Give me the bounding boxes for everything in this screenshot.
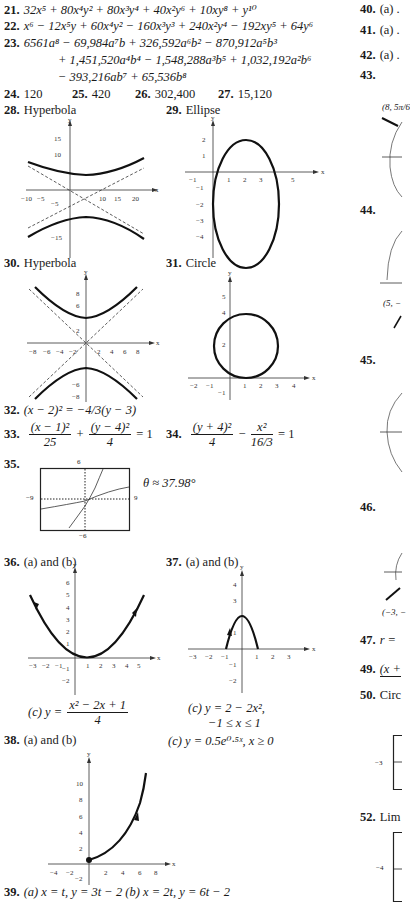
svg-text:1: 1: [255, 653, 259, 661]
svg-text:−1: −1: [221, 653, 229, 661]
svg-text:10: 10: [76, 780, 84, 788]
svg-text:−2: −2: [66, 869, 74, 877]
svg-text:y: y: [87, 750, 91, 758]
svg-text:1: 1: [233, 629, 237, 637]
svg-text:−1: −1: [218, 389, 226, 397]
svg-text:2: 2: [243, 176, 247, 184]
answer-31-label: 31.Circle: [166, 256, 216, 271]
answer-44: 44.: [360, 203, 376, 218]
svg-text:3: 3: [112, 662, 116, 670]
svg-text:3: 3: [259, 176, 263, 184]
svg-text:6: 6: [138, 869, 142, 877]
svg-text:y: y: [73, 561, 77, 569]
svg-text:−2: −2: [62, 677, 70, 685]
chart-36-parabola: xy −3−2−1 12345 654321 −1−2: [24, 565, 164, 695]
answer-41: 41.(a) .: [360, 23, 400, 38]
svg-text:5: 5: [291, 176, 295, 184]
svg-text:−2: −2: [196, 201, 204, 209]
svg-text:5: 5: [66, 591, 70, 599]
svg-text:6: 6: [66, 579, 70, 587]
svg-text:8: 8: [76, 290, 80, 298]
chart-46-polar: [384, 550, 402, 605]
chart-28-hyperbola: xy −10−5 101520 1510−5−15: [20, 118, 160, 258]
svg-text:2: 2: [271, 653, 275, 661]
svg-text:y: y: [84, 268, 88, 276]
answer-34: 34. (y + 4)²4 − x²16/3 = 1: [166, 420, 294, 449]
svg-text:5: 5: [222, 293, 226, 301]
svg-text:−4: −4: [196, 233, 204, 241]
svg-text:4: 4: [222, 309, 226, 317]
svg-text:1: 1: [86, 662, 90, 670]
arrow-icon: [392, 315, 402, 330]
answer-35-angle: θ ≈ 37.98°: [143, 476, 195, 491]
window-left-label: −9: [26, 494, 33, 502]
svg-text:−3: −3: [196, 217, 204, 225]
svg-text:6: 6: [76, 302, 80, 310]
svg-text:20: 20: [132, 195, 140, 203]
chart-31-circle: xy −2−11 234 542−1: [188, 275, 328, 400]
svg-text:−5: −5: [37, 195, 45, 203]
answer-39: 39.(a) x = t, y = 3t − 2 (b) x = 2t, y =…: [4, 885, 230, 900]
svg-text:−1: −1: [196, 184, 204, 192]
svg-text:−15: −15: [51, 234, 62, 242]
answer-50-tick: −3: [375, 759, 382, 767]
svg-text:y: y: [68, 116, 72, 124]
answer-30-label: 30.Hyperbola: [4, 256, 76, 271]
answer-42: 42.(a) .: [360, 48, 400, 63]
svg-text:−4: −4: [50, 869, 58, 877]
svg-text:−2: −2: [205, 653, 213, 661]
svg-text:x: x: [172, 860, 176, 868]
svg-text:−1: −1: [62, 665, 70, 673]
chart-43-polar: [380, 112, 402, 202]
svg-text:−6: −6: [43, 348, 51, 356]
svg-text:y: y: [228, 269, 232, 277]
chart-35-calculator-window: [40, 468, 130, 531]
svg-text:−1: −1: [229, 661, 237, 669]
svg-text:−6: −6: [72, 381, 80, 389]
svg-text:2: 2: [66, 628, 70, 636]
svg-text:y: y: [211, 114, 215, 122]
svg-text:4: 4: [110, 348, 114, 356]
svg-text:−4: −4: [56, 348, 64, 356]
svg-text:3: 3: [287, 653, 291, 661]
svg-text:8: 8: [154, 869, 158, 877]
answer-49: 49.(x +: [360, 662, 401, 677]
answer-38-label: 38.(a) and (b): [4, 733, 76, 748]
chart-38-exponential: xy −4−2 2468 108642 −2: [44, 755, 184, 890]
answer-22: 22.x⁶ − 12x⁵y + 60x⁴y² − 160x³y³ + 240x²…: [4, 19, 313, 34]
answer-52: 52.Lim: [360, 810, 400, 825]
answer-37-c-domain: −1 ≤ x ≤ 1: [208, 716, 261, 731]
svg-text:−5: −5: [51, 200, 59, 208]
svg-text:4: 4: [292, 382, 296, 390]
svg-text:−1: −1: [206, 382, 214, 390]
window-right-label: 9: [134, 494, 138, 502]
svg-text:4: 4: [233, 581, 237, 589]
svg-text:1: 1: [202, 152, 206, 160]
answer-23-line3: − 393,216ab⁷ + 65,536b⁸: [58, 70, 187, 85]
answer-24: 24.120: [4, 87, 42, 102]
svg-text:6: 6: [123, 348, 127, 356]
svg-text:x: x: [156, 339, 160, 347]
answer-21: 21.32x⁵ + 80x⁴y² + 80x³y⁴ + 40x²y⁶ + 10x…: [4, 2, 257, 18]
svg-text:2: 2: [222, 341, 226, 349]
svg-text:2: 2: [202, 136, 206, 144]
svg-text:10: 10: [54, 151, 62, 159]
svg-text:1: 1: [243, 382, 247, 390]
answer-32: 32.(x − 2)² = −4/3(y − 3): [4, 403, 136, 418]
answer-27: 27.15,120: [218, 87, 272, 102]
svg-text:4: 4: [79, 829, 83, 837]
chart-44-polar: [380, 225, 402, 300]
svg-text:3: 3: [66, 616, 70, 624]
answer-35-number: 35.: [4, 457, 20, 472]
window-top-label: 6: [77, 458, 81, 466]
svg-text:15: 15: [114, 195, 122, 203]
svg-text:8: 8: [79, 796, 83, 804]
svg-text:2: 2: [104, 869, 108, 877]
answer-44-point: (5, −: [383, 298, 401, 308]
svg-text:−2: −2: [42, 662, 50, 670]
svg-text:8: 8: [136, 348, 140, 356]
answer-25: 25.420: [72, 87, 110, 102]
answer-37-c: (c) y = 2 − 2x²,: [188, 701, 265, 716]
window-bottom-label: −6: [79, 532, 86, 540]
svg-text:1: 1: [227, 176, 231, 184]
